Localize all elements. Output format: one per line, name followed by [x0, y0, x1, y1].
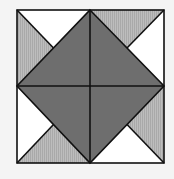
- geometric-figure: [0, 0, 174, 179]
- quilt-square-diagram: [0, 0, 174, 179]
- outline-lines: [17, 10, 164, 163]
